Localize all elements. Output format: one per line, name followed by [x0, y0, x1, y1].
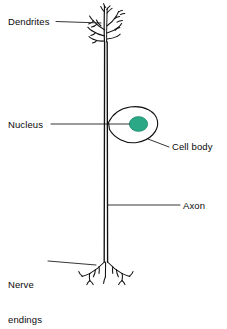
label-axon: Axon — [183, 200, 205, 212]
nerve-endings-group — [79, 262, 133, 285]
label-nerve-endings-line1: Nerve — [8, 279, 42, 291]
label-nerve-endings: Nerve endings — [8, 256, 42, 329]
leader-lines-group — [48, 22, 180, 266]
label-dendrites: Dendrites — [8, 16, 50, 28]
label-nerve-endings-line2: endings — [8, 314, 42, 326]
label-nucleus: Nucleus — [8, 119, 43, 131]
axon-group — [104, 42, 107, 262]
dendrites-group — [88, 4, 125, 43]
nucleus-shape — [129, 117, 147, 132]
label-cell-body: Cell body — [172, 141, 213, 153]
leader-line-cellbody — [148, 139, 169, 147]
leader-line-nerve-endings — [48, 261, 96, 265]
